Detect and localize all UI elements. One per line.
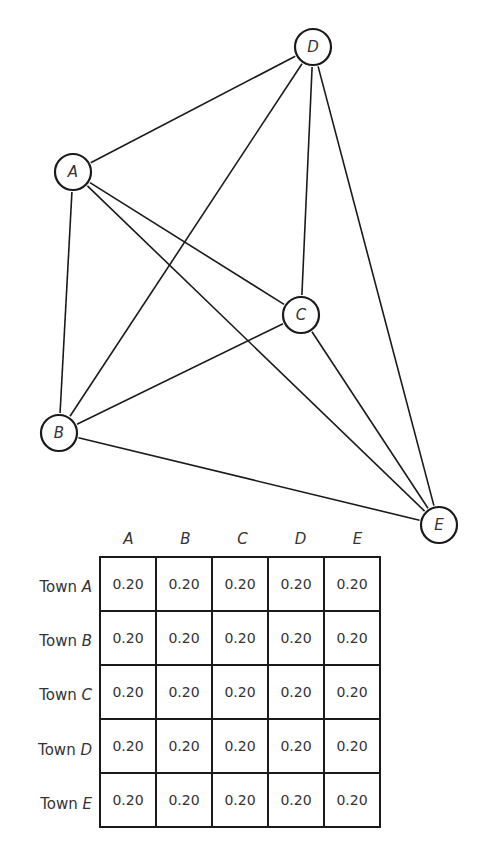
row-label-prefix: Town <box>39 686 77 704</box>
edge-a-d <box>91 56 296 163</box>
column-header-a: A <box>100 530 157 548</box>
matrix-cell: 0.20 <box>268 611 324 665</box>
column-header-e: E <box>329 530 386 548</box>
table-row: 0.20 0.20 0.20 0.20 0.20 <box>100 773 380 827</box>
row-label-prefix: Town <box>39 632 77 650</box>
matrix-cell: 0.20 <box>268 557 324 611</box>
node-label: C <box>296 306 307 324</box>
node-e: E <box>421 507 457 543</box>
matrix-cell: 0.20 <box>212 665 268 719</box>
matrix-cell: 0.20 <box>156 719 212 773</box>
node-label: D <box>307 38 319 56</box>
matrix-cell: 0.20 <box>324 719 380 773</box>
node-d: D <box>295 29 331 65</box>
row-label-prefix: Town <box>38 741 76 759</box>
row-label-town-e: Town E <box>0 795 92 813</box>
edge-b-e <box>78 438 419 521</box>
matrix-cell: 0.20 <box>212 719 268 773</box>
table-row: 0.20 0.20 0.20 0.20 0.20 <box>100 611 380 665</box>
matrix-cell: 0.20 <box>324 557 380 611</box>
row-label-town: A <box>82 578 92 596</box>
node-c: C <box>283 297 319 333</box>
row-label-town: E <box>83 795 92 813</box>
table-row: 0.20 0.20 0.20 0.20 0.20 <box>100 665 380 719</box>
row-label-town: D <box>80 741 92 759</box>
row-label-town-a: Town A <box>0 578 92 596</box>
node-label: B <box>54 424 64 442</box>
matrix-cell: 0.20 <box>268 773 324 827</box>
matrix-cell: 0.20 <box>100 665 156 719</box>
matrix-cell: 0.20 <box>100 773 156 827</box>
matrix-cell: 0.20 <box>156 611 212 665</box>
edge-d-e <box>318 66 434 505</box>
table-row: 0.20 0.20 0.20 0.20 0.20 <box>100 557 380 611</box>
row-label-prefix: Town <box>39 578 77 596</box>
matrix-cell: 0.20 <box>100 719 156 773</box>
edge-a-c <box>90 183 284 305</box>
row-label-town-c: Town C <box>0 686 92 704</box>
column-header-c: C <box>214 530 271 548</box>
row-label-town-d: Town D <box>0 741 92 759</box>
edge-c-d <box>302 67 312 295</box>
matrix-cell: 0.20 <box>100 557 156 611</box>
row-label-town: C <box>82 686 92 704</box>
table-row: 0.20 0.20 0.20 0.20 0.20 <box>100 719 380 773</box>
edge-b-c <box>77 324 283 424</box>
matrix-cell: 0.20 <box>324 773 380 827</box>
matrix-cell: 0.20 <box>156 773 212 827</box>
matrix-cell: 0.20 <box>100 611 156 665</box>
matrix-cell: 0.20 <box>212 773 268 827</box>
matrix-cell: 0.20 <box>156 557 212 611</box>
graph-nodes: ABCDE <box>41 29 457 543</box>
node-b: B <box>41 415 77 451</box>
matrix-cell: 0.20 <box>156 665 212 719</box>
matrix-cell: 0.20 <box>212 557 268 611</box>
column-header-d: D <box>272 530 329 548</box>
row-label-prefix: Town <box>40 795 78 813</box>
edge-b-d <box>70 64 302 417</box>
matrix-cell: 0.20 <box>212 611 268 665</box>
node-a: A <box>55 154 91 190</box>
edge-a-b <box>60 192 72 413</box>
column-header-b: B <box>157 530 214 548</box>
node-label: A <box>67 163 78 181</box>
edge-a-e <box>87 186 424 511</box>
graph-edges <box>60 56 434 520</box>
row-label-town: B <box>82 632 92 650</box>
node-label: E <box>434 516 444 534</box>
transition-matrix: 0.20 0.20 0.20 0.20 0.20 0.20 0.20 0.20 … <box>99 556 381 828</box>
row-label-town-b: Town B <box>0 632 92 650</box>
matrix-cell: 0.20 <box>324 665 380 719</box>
town-network-graph: ABCDE <box>0 0 493 560</box>
matrix-cell: 0.20 <box>324 611 380 665</box>
matrix-cell: 0.20 <box>268 665 324 719</box>
matrix-cell: 0.20 <box>268 719 324 773</box>
